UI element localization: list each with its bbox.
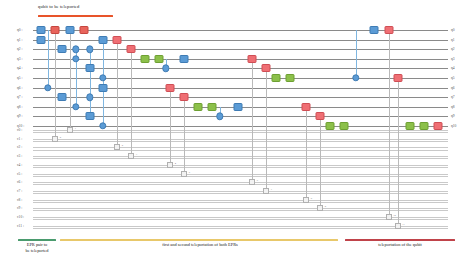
classical-wire-label: c4 : — [17, 163, 22, 167]
measurement-line — [266, 68, 267, 191]
quantum-gate — [302, 103, 311, 111]
quantum-gate — [86, 64, 95, 72]
measurement-line — [55, 30, 56, 139]
quantum-gate — [99, 84, 108, 92]
measurement-line — [252, 59, 253, 182]
quantum-gate — [127, 45, 136, 53]
cnot-link — [90, 49, 91, 116]
quantum-gate — [385, 26, 394, 34]
legend-bar — [60, 239, 338, 241]
measurement-line — [170, 88, 171, 165]
classical-wire-label: c10 : — [17, 215, 24, 219]
quantum-gate — [66, 26, 75, 34]
quantum-gate — [141, 55, 150, 63]
cnot-control-dot — [72, 45, 79, 52]
cnot-control-dot — [44, 84, 51, 91]
quantum-gate — [262, 64, 271, 72]
quantum-gate — [326, 122, 335, 130]
classical-wire-label: c2 : — [17, 145, 22, 149]
quantum-gate — [180, 55, 189, 63]
quantum-wire-label-left: q0 : — [17, 28, 23, 32]
classical-write-marker — [303, 197, 309, 203]
quantum-gate — [406, 122, 415, 130]
top-annotation-label: qubit to be teleported — [38, 4, 79, 9]
quantum-gate — [99, 36, 108, 44]
quantum-wire-label-left: q1 : — [17, 38, 23, 42]
quantum-gate — [37, 36, 46, 44]
measurement-line — [320, 116, 321, 208]
measurement-line — [306, 107, 307, 200]
quantum-gate — [272, 74, 281, 82]
classical-wire — [33, 226, 448, 229]
legend-label: teleportation of the qubit — [348, 242, 452, 248]
quantum-wire-label-left: q8 : — [17, 105, 23, 109]
quantum-gate — [180, 93, 189, 101]
classical-wire-label: c6 : — [17, 180, 22, 184]
cnot-control-dot — [86, 45, 93, 52]
classical-wire — [33, 191, 448, 194]
classical-bit-index: 0 — [60, 135, 61, 138]
quantum-gate — [86, 112, 95, 120]
classical-wire-label: c8 : — [17, 198, 22, 202]
classical-write-marker — [167, 162, 173, 168]
cnot-control-dot — [216, 113, 223, 120]
quantum-gate — [80, 26, 89, 34]
classical-bit-index: 8 — [311, 196, 312, 199]
quantum-wire — [33, 40, 448, 41]
classical-wire — [33, 147, 448, 150]
quantum-wire — [33, 78, 448, 79]
classical-write-marker — [67, 127, 73, 133]
classical-bit-index: 2 — [122, 144, 123, 147]
quantum-wire-label-left: q7 : — [17, 95, 23, 99]
measurement-line — [117, 40, 118, 148]
classical-wire-label: c1 : — [17, 137, 22, 141]
classical-wire — [33, 208, 448, 211]
classical-wire-label: c11 : — [17, 224, 24, 228]
cnot-control-dot — [72, 103, 79, 110]
quantum-gate — [234, 103, 243, 111]
classical-wire — [33, 174, 448, 177]
legend-bar — [345, 239, 455, 241]
classical-bit-index: 6 — [257, 179, 258, 182]
cnot-link — [356, 30, 357, 78]
classical-wire — [33, 130, 448, 133]
quantum-wire — [33, 49, 448, 50]
classical-write-marker — [263, 188, 269, 194]
quantum-wire-label-right: q6 — [451, 86, 455, 90]
quantum-gate — [155, 55, 164, 63]
classical-wire-label: c3 : — [17, 154, 22, 158]
classical-bit-index: 5 — [189, 170, 190, 173]
cnot-control-dot — [352, 74, 359, 81]
classical-wire — [33, 139, 448, 142]
quantum-wire-label-left: q4 : — [17, 66, 23, 70]
cnot-control-dot — [86, 93, 93, 100]
classical-wire — [33, 156, 448, 159]
quantum-wire-label-right: q3 — [451, 57, 455, 61]
quantum-wire-label-right: q4 — [451, 66, 455, 70]
quantum-wire-label-left: q6 : — [17, 86, 23, 90]
quantum-gate — [58, 93, 67, 101]
quantum-wire — [33, 68, 448, 69]
quantum-gate — [340, 122, 349, 130]
quantum-wire-label-right: q8 — [451, 105, 455, 109]
quantum-wire-label-left: q5 : — [17, 76, 23, 80]
quantum-gate — [420, 122, 429, 130]
quantum-gate — [166, 84, 175, 92]
quantum-gate — [58, 45, 67, 53]
classical-wire-label: c9 : — [17, 206, 22, 210]
quantum-gate — [434, 122, 443, 130]
quantum-wire — [33, 97, 448, 98]
classical-bit-index: 3 — [136, 153, 137, 156]
quantum-wire-label-left: q3 : — [17, 57, 23, 61]
classical-bit-index: 11 — [402, 222, 405, 225]
cnot-control-dot — [162, 65, 169, 72]
legend-label: first and second teleportation of both E… — [110, 242, 290, 248]
quantum-gate — [194, 103, 203, 111]
classical-write-marker — [128, 153, 134, 159]
quantum-wire-label-right: q1 — [451, 38, 455, 42]
quantum-wire-label-right: q0 — [451, 28, 455, 32]
quantum-wire — [33, 126, 448, 127]
top-annotation-bar — [38, 15, 113, 17]
quantum-gate — [51, 26, 60, 34]
classical-wire — [33, 165, 448, 168]
